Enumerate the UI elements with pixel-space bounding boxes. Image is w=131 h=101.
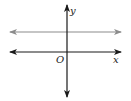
coordinate-diagram: y x O [0,0,131,101]
y-axis-label: y [69,5,76,16]
x-axis-label: x [113,54,119,65]
origin-label: O [56,54,64,65]
